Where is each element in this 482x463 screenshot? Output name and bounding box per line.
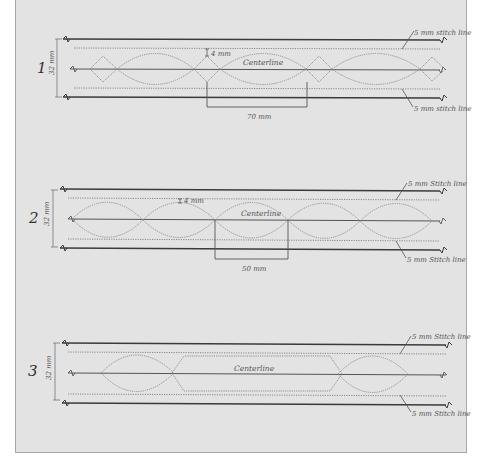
diamond-shape bbox=[420, 57, 445, 81]
diagram-1: 1 32 mm 4 mm Centerline 70 mm bbox=[37, 29, 471, 121]
diagram-2: 2 32 mm 4 mm Centerline 50 mm 5 mm Stitc… bbox=[28, 180, 467, 273]
height-label: 32 mm bbox=[43, 201, 51, 226]
break-mark-icon bbox=[440, 247, 447, 253]
outer-edge-bottom bbox=[62, 403, 446, 405]
leader-line bbox=[400, 395, 411, 412]
height-label: 32 mm bbox=[48, 50, 56, 75]
diagram-number: 3 bbox=[28, 362, 38, 380]
stitch-line-bottom-label: 5 mm Stitch line bbox=[412, 410, 471, 418]
stitch-line-top bbox=[68, 198, 440, 200]
diagram-number: 2 bbox=[28, 209, 39, 227]
span-label: 50 mm bbox=[242, 265, 267, 273]
break-mark-icon bbox=[445, 402, 452, 408]
break-mark-icon bbox=[440, 95, 447, 101]
centerline-label: Centerline bbox=[243, 58, 284, 67]
offset-label: 4 mm bbox=[210, 50, 231, 58]
break-mark-icon bbox=[440, 188, 447, 194]
stitch-line-top-label: 5 mm Stitch line bbox=[412, 333, 471, 341]
stitch-line-top bbox=[68, 352, 446, 354]
break-mark-icon bbox=[440, 37, 447, 43]
outer-edge-bottom bbox=[63, 97, 440, 98]
stitch-line-top-label: 5 mm Stitch line bbox=[408, 180, 467, 188]
stitch-line-bottom bbox=[68, 394, 446, 396]
centerline-label: Centerline bbox=[241, 209, 282, 218]
diagram-3: 3 32 mm Centerline 5 mm Stitch line 5 mm… bbox=[28, 333, 471, 418]
leader-line bbox=[396, 183, 407, 200]
diamond-shape bbox=[306, 56, 332, 82]
stitch-line-top bbox=[74, 48, 440, 49]
diagram-number: 1 bbox=[37, 59, 47, 77]
centerline-label: Centerline bbox=[234, 364, 275, 373]
outer-edge-top bbox=[60, 189, 440, 191]
centerline bbox=[68, 373, 446, 375]
lens-shape bbox=[332, 54, 420, 85]
stitch-line-bottom bbox=[74, 88, 440, 89]
stitch-line-top-label: 5 mm stitch line bbox=[414, 29, 471, 37]
outer-edge-top bbox=[63, 39, 440, 40]
stitch-line-bottom bbox=[68, 239, 440, 241]
stitch-diagrams: 1 32 mm 4 mm Centerline 70 mm bbox=[0, 0, 482, 463]
stitch-line-bottom-label: 5 mm stitch line bbox=[414, 105, 471, 113]
outer-edge-top bbox=[62, 343, 446, 345]
stitch-line-bottom-label: 5 mm Stitch line bbox=[407, 256, 466, 264]
span-bracket bbox=[207, 82, 307, 107]
centerline bbox=[70, 69, 440, 70]
span-label: 70 mm bbox=[247, 113, 272, 121]
offset-label: 4 mm bbox=[183, 197, 204, 205]
height-label: 32 mm bbox=[45, 355, 53, 380]
centerline bbox=[68, 219, 440, 221]
outer-edge-bottom bbox=[60, 248, 440, 250]
break-mark-icon bbox=[445, 342, 452, 348]
